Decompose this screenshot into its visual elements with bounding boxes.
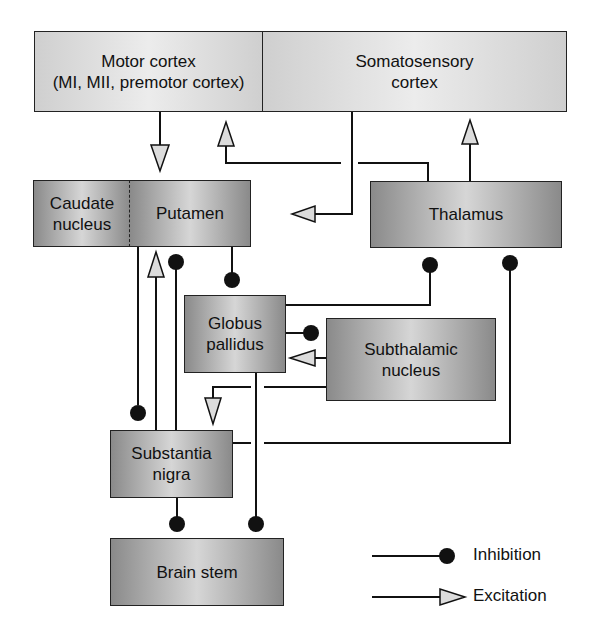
inhibition-dot: [303, 325, 319, 341]
inhibition-dot: [130, 405, 146, 421]
excitation-arrow: [218, 122, 234, 146]
legend-inhibition-dot: [439, 548, 455, 564]
excitation-arrow: [462, 120, 478, 144]
inhibition-dot: [422, 257, 438, 273]
inhibition-dot: [248, 516, 264, 532]
connection-lines: [0, 0, 596, 638]
legend-excitation-arrow: [440, 589, 465, 605]
inhibition-dot: [502, 255, 518, 271]
excitation-arrow: [151, 145, 169, 171]
inhibition-dot: [168, 254, 184, 270]
excitation-arrow: [292, 206, 315, 222]
excitation-arrow: [205, 398, 221, 424]
legend-excitation-label: Excitation: [473, 586, 547, 606]
excitation-arrow: [290, 350, 315, 366]
legend-inhibition-label: Inhibition: [473, 545, 541, 565]
inhibition-dot: [169, 516, 185, 532]
excitation-arrow: [148, 252, 164, 277]
inhibition-dot: [224, 272, 240, 288]
